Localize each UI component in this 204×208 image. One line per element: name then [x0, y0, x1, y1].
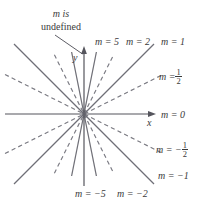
label-m-5: m = 5 — [95, 36, 119, 48]
fraction-one-half: 12 — [175, 68, 181, 87]
y-axis-label: y — [73, 52, 77, 63]
label-m-neg-one-half-prefix: m = − — [156, 144, 182, 155]
label-m-neg-one-half: m = −12 — [156, 141, 188, 160]
x-axis-label: x — [147, 117, 151, 128]
label-m-1: m = 1 — [161, 36, 185, 48]
fraction-neg-one-half: 12 — [182, 141, 188, 160]
fraction-one-half-denominator: 2 — [175, 77, 181, 86]
label-m-one-half: m =12 — [159, 68, 182, 87]
slope-lines-figure: m is undefined y x m = 5 m = 2 m = 1 m =… — [0, 0, 204, 208]
origin-marker — [82, 112, 86, 116]
label-m-neg-5: m = −5 — [75, 188, 106, 200]
annotation-m-undefined-line1: m is — [53, 8, 69, 19]
label-m-neg-1: m = −1 — [158, 170, 189, 182]
label-m-one-half-prefix: m = — [159, 71, 175, 82]
label-m-2: m = 2 — [126, 36, 150, 48]
label-m-neg-2: m = −2 — [117, 188, 148, 200]
annotation-m-undefined-line2: undefined — [41, 21, 81, 32]
label-m-0: m = 0 — [161, 109, 185, 121]
annotation-m-undefined: m is undefined — [30, 8, 92, 33]
undefined-leader-line — [55, 35, 83, 54]
fraction-neg-one-half-denominator: 2 — [182, 150, 188, 159]
y-axis-arrowhead — [81, 46, 87, 54]
